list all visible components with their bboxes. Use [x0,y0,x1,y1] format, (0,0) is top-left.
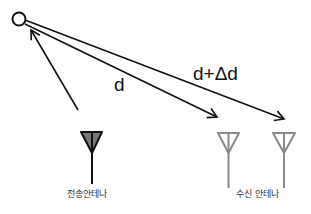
label-rx-antenna: 수신 안테나 [236,187,279,200]
label-tx-antenna: 전송안테나 [67,187,107,200]
path-d-arrow [25,24,217,117]
diagram-graphics [0,0,311,214]
tx-to-source-arrow [31,30,78,110]
label-d-plus-delta-d: d+Δd [193,63,238,85]
label-d: d [114,74,125,96]
tx-antenna-icon [81,132,102,184]
source-circle-icon [13,13,26,26]
diagram-canvas: d d+Δd 전송안테나 수신 안테나 [0,0,311,214]
rx-antenna-1-icon [218,133,239,188]
rx-antenna-2-icon [273,133,295,188]
path-d-delta-arrow [25,20,284,119]
